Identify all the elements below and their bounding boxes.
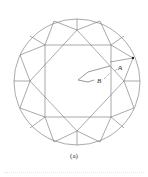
- label-b: B: [97, 77, 102, 85]
- reflection-point: [132, 57, 134, 59]
- crown-facets: [14, 19, 140, 145]
- divider: [4, 172, 144, 174]
- label-a: A: [117, 64, 123, 72]
- figure-caption: (a): [0, 152, 148, 160]
- gem-facet-diagram: A B: [0, 0, 148, 177]
- light-ray-path: [78, 66, 110, 82]
- label-b-leader: [104, 73, 110, 79]
